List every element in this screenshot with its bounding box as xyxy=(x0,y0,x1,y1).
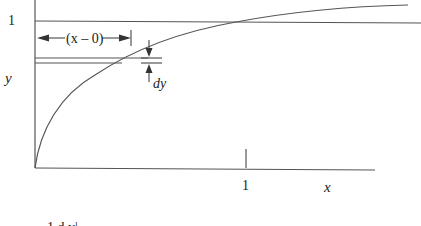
curve xyxy=(35,5,408,168)
arrowhead-up-icon xyxy=(146,64,153,73)
x-axis xyxy=(35,168,375,170)
x-tick-label: 1 xyxy=(242,178,249,193)
y-axis-label: y xyxy=(3,70,12,86)
interval-label: (x – 0) xyxy=(66,31,104,47)
bottom-cut-text: 1 d y| xyxy=(47,220,78,226)
dy-label: dy xyxy=(153,76,167,91)
x-axis-label: x xyxy=(323,179,331,195)
y-tick-label: 1 xyxy=(8,13,15,28)
arrowhead-right-icon xyxy=(119,35,131,42)
diagram-canvas: 1 y (x – 0) dy 1 x 1 d y| xyxy=(0,0,421,226)
arrowhead-left-icon xyxy=(37,35,49,42)
y-equals-one-line xyxy=(35,21,421,23)
arrowhead-down-icon xyxy=(146,48,153,57)
